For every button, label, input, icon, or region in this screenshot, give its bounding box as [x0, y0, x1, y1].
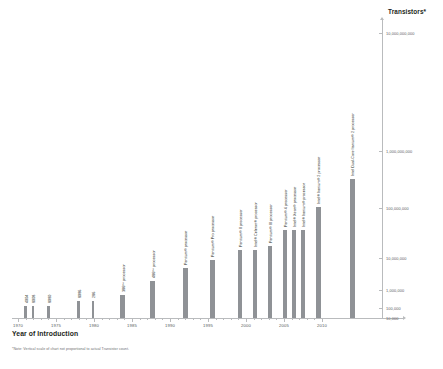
y-axis-tick-label: 10,000	[386, 316, 399, 321]
transistor-count-chart: Transistors* Year of Introduction *Note:…	[0, 0, 443, 369]
bar-label: Intel® Itanium® 2 processor	[318, 157, 322, 204]
y-axis-line	[382, 20, 383, 319]
bar	[47, 306, 50, 318]
x-axis-minor-tick	[124, 318, 125, 320]
x-axis-minor-tick	[64, 318, 65, 320]
y-axis-tick	[379, 290, 382, 291]
x-axis-minor-tick	[292, 318, 293, 320]
x-axis-minor-tick	[178, 318, 179, 320]
x-axis-major-tick	[246, 318, 247, 322]
x-axis-minor-tick	[299, 318, 300, 320]
x-axis-tick-label: 2005	[279, 323, 289, 328]
x-axis-minor-tick	[216, 318, 217, 320]
x-axis-minor-tick	[109, 318, 110, 320]
bar-label: 8008	[33, 295, 37, 303]
bar-label: Pentium® processor	[185, 231, 189, 265]
bar-label: Intel® Celeron® processor	[255, 202, 259, 247]
x-axis-minor-tick	[307, 318, 308, 320]
x-axis-minor-tick	[41, 318, 42, 320]
bar-label: 8080	[49, 295, 53, 303]
x-axis-minor-tick	[26, 318, 27, 320]
x-axis-minor-tick	[86, 318, 87, 320]
x-axis-tick-label: 1985	[127, 323, 137, 328]
x-axis-minor-tick	[162, 318, 163, 320]
x-axis-minor-tick	[102, 318, 103, 320]
bar-label: Pentium® III processor	[270, 204, 274, 243]
x-axis-minor-tick	[231, 318, 232, 320]
bar	[77, 301, 80, 318]
x-axis-minor-tick	[79, 318, 80, 320]
bar-label: 286	[93, 292, 97, 298]
bar	[301, 230, 305, 318]
x-axis-minor-tick	[71, 318, 72, 320]
bar	[268, 246, 272, 318]
x-axis-minor-tick	[33, 318, 34, 320]
bar-label: Pentium® 4 processor	[285, 189, 289, 227]
x-axis-minor-tick	[314, 318, 315, 320]
y-axis-tick	[379, 308, 382, 309]
x-axis-minor-tick	[185, 318, 186, 320]
x-axis-minor-tick	[140, 318, 141, 320]
bar	[210, 260, 215, 318]
bar	[120, 295, 125, 318]
bar	[350, 179, 355, 318]
bar-label: 8086	[79, 290, 83, 298]
x-axis-major-tick	[170, 318, 171, 322]
x-axis-tick-label: 2010	[317, 323, 327, 328]
x-axis-minor-tick	[238, 318, 239, 320]
bar-label: Intel® Itanium® processor	[303, 183, 307, 227]
x-axis-minor-tick	[147, 318, 148, 320]
bar-label: 486™ processor	[153, 250, 157, 278]
x-axis-minor-tick	[254, 318, 255, 320]
y-axis-tick	[379, 33, 382, 34]
y-axis-tick-label: 1,000,000,000	[386, 149, 412, 154]
x-axis-tick-label: 1980	[89, 323, 99, 328]
x-axis-major-tick	[132, 318, 133, 322]
x-axis-tick-label: 1995	[203, 323, 213, 328]
x-axis-minor-tick	[223, 318, 224, 320]
bar-label: Pentium® Pro processor	[212, 216, 216, 257]
x-axis-minor-tick	[200, 318, 201, 320]
bar	[183, 268, 188, 318]
y-axis-tick-label: 100,000	[386, 306, 401, 311]
y-axis-title: Transistors*	[388, 8, 426, 15]
x-axis-tick-label: 2000	[241, 323, 251, 328]
y-axis-tick-label: 100,000,000	[386, 206, 409, 211]
x-axis-major-tick	[284, 318, 285, 322]
y-axis-tick	[379, 151, 382, 152]
x-axis-minor-tick	[276, 318, 277, 320]
x-axis-tick-label: 1990	[165, 323, 175, 328]
x-axis-major-tick	[208, 318, 209, 322]
y-axis-tick-label: 1,000,000	[386, 288, 404, 293]
bar-label: Intel Dual-Core Itanium® 2 processor	[352, 113, 356, 176]
bar	[92, 301, 95, 318]
x-axis-minor-tick	[48, 318, 49, 320]
bar	[238, 250, 242, 318]
chart-footnote: *Note: Vertical scale of chart not propo…	[12, 347, 129, 351]
bar-label: Intel® Xeon® processor	[294, 187, 298, 227]
x-axis-major-tick	[18, 318, 19, 322]
y-axis-tick-label: 10,000,000,000	[386, 31, 414, 36]
x-axis-minor-tick	[117, 318, 118, 320]
x-axis-arrow-icon	[403, 316, 406, 320]
x-axis-tick-label: 1975	[51, 323, 61, 328]
x-axis-title: Year of Introduction	[12, 330, 78, 337]
y-axis-arrow-icon	[380, 17, 384, 20]
y-axis-tick	[379, 208, 382, 209]
x-axis-minor-tick	[155, 318, 156, 320]
y-axis-tick	[379, 258, 382, 259]
bar	[292, 230, 296, 318]
x-axis-tick-label: 1970	[13, 323, 23, 328]
y-axis-tick-label: 10,000,000	[386, 256, 406, 261]
bar	[253, 250, 257, 318]
bar-label: Pentium® II processor	[240, 209, 244, 247]
x-axis-major-tick	[322, 318, 323, 322]
bar	[316, 207, 321, 318]
x-axis-minor-tick	[261, 318, 262, 320]
bar-label: 4004	[26, 295, 30, 303]
x-axis-major-tick	[56, 318, 57, 322]
bar	[32, 306, 35, 318]
x-axis-minor-tick	[269, 318, 270, 320]
bar	[24, 306, 27, 318]
y-axis-tick	[379, 318, 382, 319]
